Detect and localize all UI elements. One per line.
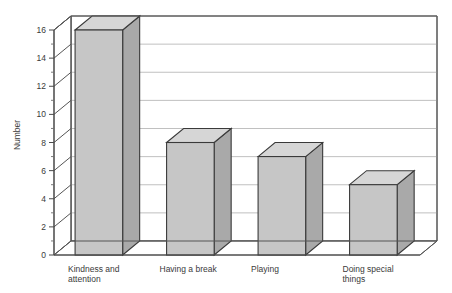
bar <box>258 143 323 255</box>
x-tick-label: Doing specialthings <box>343 264 394 284</box>
x-tick-label-line: things <box>343 274 366 284</box>
y-tick-label: 2 <box>41 222 46 232</box>
bar-front-face <box>167 143 215 256</box>
y-tick-label: 4 <box>41 194 46 204</box>
y-tick-label: 8 <box>41 138 46 148</box>
x-tick-label-line: Playing <box>251 264 279 274</box>
bar-front-face <box>258 157 306 255</box>
x-label-group: Kindness andattentionHaving a breakPlayi… <box>68 264 394 284</box>
y-tick-label: 14 <box>37 53 47 63</box>
bar <box>75 16 140 255</box>
bar-side-face <box>306 143 323 255</box>
bar-side-face <box>123 16 140 255</box>
x-tick-label-line: Having a break <box>160 264 218 274</box>
bar <box>350 171 415 255</box>
x-tick-label: Kindness andattention <box>68 264 120 284</box>
chart-canvas: 0246810121416 Number Kindness andattenti… <box>0 0 452 293</box>
y-tick-label: 6 <box>41 166 46 176</box>
bar-chart: 0246810121416 Number Kindness andattenti… <box>0 0 452 293</box>
x-tick-label-line: Doing special <box>343 264 394 274</box>
y-tick-label: 12 <box>37 81 47 91</box>
y-tick-label: 16 <box>37 25 47 35</box>
bar-front-face <box>75 30 123 255</box>
y-tick-group: 0246810121416 <box>37 25 54 260</box>
y-axis-title: Number <box>12 120 22 150</box>
bar <box>167 129 232 256</box>
x-tick-label-line: attention <box>68 274 101 284</box>
y-tick-label: 0 <box>41 250 46 260</box>
y-tick-label: 10 <box>37 109 47 119</box>
bar-side-face <box>397 171 414 255</box>
bar-side-face <box>214 129 231 256</box>
x-tick-label: Having a break <box>160 264 218 274</box>
x-tick-label-line: Kindness and <box>68 264 120 274</box>
x-tick-label: Playing <box>251 264 279 274</box>
bar-front-face <box>350 185 398 255</box>
